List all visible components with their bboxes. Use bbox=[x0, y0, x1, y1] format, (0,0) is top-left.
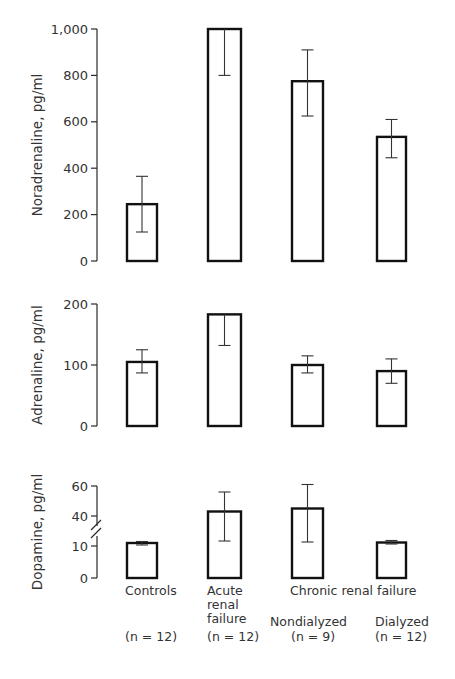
category-name: Controls bbox=[125, 584, 177, 598]
x-label-acute: Acute renal failure bbox=[207, 584, 246, 626]
y-axis-label: Dopamine, pg/ml bbox=[29, 474, 45, 590]
x-label-nondialyzed: Nondialyzed bbox=[270, 615, 347, 629]
y-tick-label: 600 bbox=[63, 114, 88, 129]
y-tick-label: 0 bbox=[80, 254, 88, 269]
x-label-controls: Controls bbox=[125, 584, 177, 598]
adrenaline-panel: 0100200Adrenaline, pg/ml bbox=[29, 297, 406, 434]
category-name: Nondialyzed bbox=[270, 615, 347, 629]
axis-break-icon bbox=[91, 520, 101, 538]
y-tick-label: 40 bbox=[71, 509, 88, 524]
y-tick-label: 200 bbox=[63, 207, 88, 222]
y-axis-label: Noradrenaline, pg/ml bbox=[29, 74, 45, 217]
dopamine-panel: 0104060Dopamine, pg/ml bbox=[29, 474, 406, 590]
category-name-line-2: renal bbox=[207, 598, 246, 612]
n-count-nondialyzed: (n = 9) bbox=[291, 630, 335, 644]
n-count-acute: (n = 12) bbox=[207, 630, 259, 644]
category-name-line-3: failure bbox=[207, 612, 246, 626]
y-tick-label: 60 bbox=[71, 479, 88, 494]
bar-chart-figure: 02004006008001,000Noradrenaline, pg/ml 0… bbox=[0, 0, 455, 679]
y-tick-label: 100 bbox=[63, 358, 88, 373]
n-count-dialyzed: (n = 12) bbox=[375, 630, 427, 644]
y-tick-label: 1,000 bbox=[51, 22, 88, 37]
group-label-chronic-renal-failure: Chronic renal failure bbox=[290, 584, 416, 598]
bar bbox=[127, 543, 157, 578]
n-count-controls: (n = 12) bbox=[125, 630, 177, 644]
y-tick-label: 0 bbox=[80, 419, 88, 434]
bar bbox=[377, 543, 406, 579]
noradrenaline-panel: 02004006008001,000Noradrenaline, pg/ml bbox=[29, 22, 406, 269]
category-name: Dialyzed bbox=[375, 615, 429, 629]
y-tick-label: 400 bbox=[63, 161, 88, 176]
x-label-dialyzed: Dialyzed bbox=[375, 615, 429, 629]
bar bbox=[292, 365, 323, 426]
y-tick-label: 10 bbox=[71, 539, 88, 554]
y-axis-label: Adrenaline, pg/ml bbox=[29, 305, 45, 425]
category-name-line-1: Acute bbox=[207, 584, 246, 598]
chart-canvas: 02004006008001,000Noradrenaline, pg/ml 0… bbox=[0, 0, 455, 679]
y-tick-label: 800 bbox=[63, 68, 88, 83]
y-tick-label: 0 bbox=[80, 571, 88, 586]
y-tick-label: 200 bbox=[63, 297, 88, 312]
